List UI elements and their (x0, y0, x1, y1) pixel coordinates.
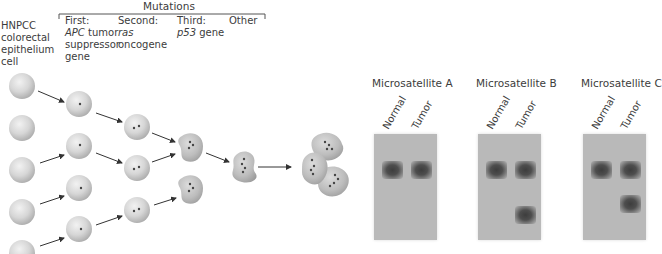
mutation-dot (80, 187, 82, 189)
lane-label-tumor: Tumor (513, 99, 538, 131)
normal-cell (9, 115, 35, 141)
lane-label-normal: Normal (380, 94, 408, 131)
mutated-blob (178, 175, 203, 204)
stage-third-mutation (178, 133, 203, 204)
band-normal (382, 161, 403, 179)
mutated-cell (66, 133, 92, 159)
mutation-dot (79, 144, 81, 146)
normal-cell (9, 73, 35, 99)
lane-label-tumor: Tumor (618, 99, 643, 131)
arrow-icon (152, 154, 175, 162)
arrow-icon (40, 238, 64, 246)
arrow-icon (206, 153, 229, 162)
gel-microsatellite-a (374, 134, 437, 240)
arrow-icon (38, 91, 64, 102)
gel-title-a: Microsatellite A (372, 77, 453, 89)
arrow-icon (96, 113, 122, 122)
lane-label-tumor: Tumor (409, 99, 434, 131)
mutated-cell (124, 197, 150, 223)
mutated-cell (66, 175, 92, 201)
stage-first-mutation (66, 91, 92, 242)
normal-cell (9, 240, 35, 254)
band-tumor (620, 161, 641, 179)
normal-cell (9, 157, 35, 183)
lane-label-normal: Normal (589, 94, 617, 131)
mutation-dot (80, 228, 82, 230)
tumor-cluster (302, 133, 349, 197)
mutation-dot (79, 103, 81, 105)
band-tumor-extra (515, 206, 536, 224)
band-tumor (411, 161, 432, 179)
stage-other-mutation (232, 151, 256, 182)
arrow-icon (96, 216, 122, 225)
arrow-icon (96, 153, 122, 163)
mutated-cell (66, 216, 92, 242)
band-normal (486, 161, 507, 179)
mutated-blob (178, 133, 203, 162)
arrow-icon (152, 133, 175, 142)
arrow-icon (40, 196, 64, 204)
band-tumor-extra (620, 195, 641, 213)
band-tumor (515, 161, 536, 179)
progression-diagram (0, 0, 370, 254)
band-normal (591, 161, 612, 179)
normal-cell (9, 199, 35, 225)
mutated-cell (124, 155, 150, 181)
stage-second-mutation (124, 114, 150, 223)
gel-microsatellite-c (583, 134, 646, 240)
stage-normal-cells (9, 73, 35, 254)
lane-label-normal: Normal (484, 94, 512, 131)
mutated-cell (124, 114, 150, 140)
arrow-icon (40, 155, 64, 163)
gel-title-c: Microsatellite C (581, 77, 662, 89)
gel-microsatellite-b (478, 134, 541, 240)
arrow-icon (154, 198, 176, 205)
mutations-bracket (59, 14, 265, 19)
gel-title-b: Microsatellite B (476, 77, 557, 89)
